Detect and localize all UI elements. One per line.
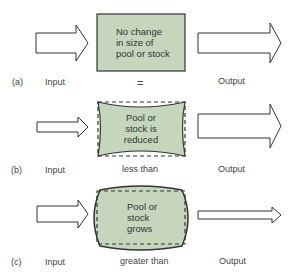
- box-text-line: in size of: [116, 37, 170, 48]
- output-arrow-b: [198, 104, 281, 148]
- relation-label-a: =: [137, 77, 143, 89]
- input-label-c: Input: [45, 257, 65, 267]
- box-text-line: pool or stock: [116, 48, 170, 59]
- box-text-line: Pool or: [127, 201, 157, 212]
- panel-tag-a: (a): [12, 77, 23, 87]
- output-arrow-a: [198, 23, 281, 63]
- relation-label-b: less than: [122, 164, 158, 174]
- box-text-line: stock: [127, 212, 157, 223]
- input-arrow-b: [37, 117, 88, 137]
- output-label-c: Output: [219, 256, 246, 266]
- box-text-line: grows: [127, 223, 157, 234]
- box-text-line: No change: [116, 26, 170, 37]
- panel-tag-b: (b): [11, 165, 22, 175]
- box-text-line: Pool or: [113, 112, 169, 123]
- output-label-b: Output: [218, 164, 245, 174]
- relation-label-c: greater than: [120, 256, 169, 266]
- panel-tag-c: (c): [11, 257, 22, 267]
- panel-c-graphics: [37, 186, 281, 250]
- box-text-b: Pool or stock is reduced: [113, 112, 169, 145]
- box-text-line: reduced: [113, 134, 169, 145]
- input-arrow-a: [36, 25, 88, 61]
- output-label-a: Output: [218, 76, 245, 86]
- box-text-c: Pool or stock grows: [127, 201, 157, 234]
- input-arrow-c: [37, 200, 88, 228]
- input-label-b: Input: [45, 165, 65, 175]
- output-arrow-c: [198, 207, 281, 223]
- input-label-a: Input: [45, 77, 65, 87]
- box-text-a: No change in size of pool or stock: [116, 26, 170, 59]
- box-text-line: stock is: [113, 123, 169, 134]
